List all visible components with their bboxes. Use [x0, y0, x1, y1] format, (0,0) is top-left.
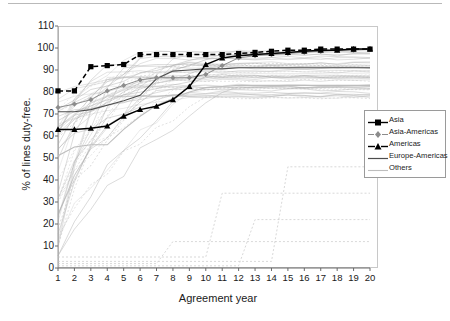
- legend-label: Asia-Americas: [389, 128, 438, 136]
- chart-legend: Asia Asia-Americas Americas: [364, 110, 446, 178]
- legend-label: Americas: [389, 140, 421, 148]
- legend-symbol-square-icon: [367, 114, 389, 125]
- legend-symbol-triangle-icon: [367, 138, 389, 149]
- legend-label: Others: [389, 164, 412, 172]
- legend-item-asia-americas[interactable]: Asia-Americas: [367, 126, 443, 137]
- legend-item-europe-americas[interactable]: Europe-Americas: [367, 150, 443, 161]
- legend-symbol-diamond-icon: [367, 126, 389, 137]
- legend-symbol-line-light-icon: [367, 162, 389, 173]
- legend-label: Europe-Americas: [389, 152, 448, 160]
- legend-item-americas[interactable]: Americas: [367, 138, 443, 149]
- legend-item-asia[interactable]: Asia: [367, 114, 443, 125]
- legend-label: Asia: [389, 116, 404, 124]
- legend-item-others[interactable]: Others: [367, 162, 443, 173]
- legend-symbol-line-dark-icon: [367, 150, 389, 161]
- chart-figure: 0102030405060708090100110 12345678910111…: [0, 0, 450, 321]
